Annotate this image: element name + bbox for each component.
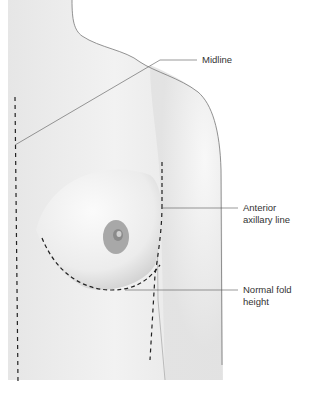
- normal-fold-height-label: Normal fold height: [243, 284, 292, 308]
- anterior-axillary-text-2: axillary line: [243, 214, 290, 226]
- normal-fold-text-1: Normal fold: [243, 284, 292, 296]
- normal-fold-text-2: height: [243, 296, 292, 308]
- anterior-axillary-text-1: Anterior: [243, 202, 290, 214]
- torso-illustration: [0, 0, 313, 397]
- midline-label: Midline: [202, 54, 232, 66]
- anterior-axillary-line-label: Anterior axillary line: [243, 202, 290, 226]
- midline-text: Midline: [202, 54, 232, 66]
